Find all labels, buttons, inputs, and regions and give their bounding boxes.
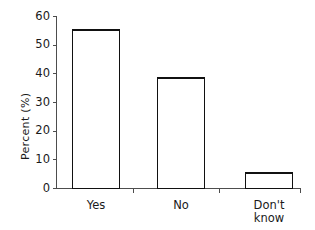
bar-chart-figure: Percent (%) 0102030405060 YesNoDon't kno… <box>0 0 315 230</box>
x-axis-category-label: No <box>141 199 221 213</box>
x-axis-category-label: Don't know <box>229 199 309 226</box>
x-axis-category-labels: YesNoDon't know <box>0 0 315 230</box>
x-axis-category-label: Yes <box>56 199 136 213</box>
